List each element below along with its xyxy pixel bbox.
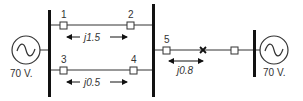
one-line-diagram: 70 V. 1 2 j1.5 3 4 j0.5 5 [0, 0, 303, 101]
generator-left-voltage: 70 V. [10, 68, 32, 79]
generator-right-voltage: 70 V. [263, 67, 285, 78]
breaker-2-label: 2 [128, 9, 134, 20]
breaker-6 [231, 47, 238, 54]
line-3-4: 3 4 j0.5 [51, 54, 152, 88]
bus-middle [152, 4, 155, 97]
bus-right [253, 30, 256, 77]
impedance-label-1-2: j1.5 [82, 32, 101, 43]
impedance-label-3-4: j0.5 [82, 77, 101, 88]
line-1-2: 1 2 j1.5 [51, 9, 152, 43]
generator-right: 70 V. [256, 36, 288, 78]
breaker-1 [60, 22, 67, 29]
breaker-2 [127, 22, 134, 29]
bus-left [48, 10, 51, 97]
breaker-4-label: 4 [131, 54, 137, 65]
breaker-5 [163, 47, 170, 54]
generator-left: 70 V. [10, 36, 48, 79]
breaker-3-label: 3 [61, 54, 67, 65]
ac-source-icon [17, 44, 35, 56]
breaker-3 [60, 67, 67, 74]
line-5-fault: 5 j0.8 [155, 34, 253, 76]
breaker-1-label: 1 [61, 9, 67, 20]
breaker-5-label: 5 [164, 34, 170, 45]
breaker-4 [130, 67, 137, 74]
impedance-label-5: j0.8 [175, 65, 194, 76]
ac-source-icon [265, 44, 283, 56]
